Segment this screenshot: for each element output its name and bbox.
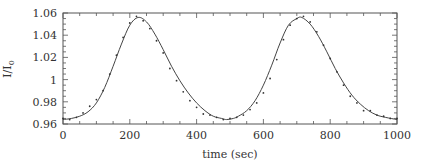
y-tick-label: 0.96 — [33, 118, 58, 131]
data-point — [69, 119, 71, 121]
data-point — [276, 59, 278, 61]
data-point — [389, 118, 391, 120]
x-tick-label: 1000 — [383, 129, 411, 142]
data-point — [149, 28, 151, 30]
data-point — [256, 102, 258, 104]
data-point — [363, 110, 365, 112]
data-point — [396, 118, 398, 120]
data-point — [82, 112, 84, 114]
data-point — [269, 78, 271, 80]
y-tick-labels: 0.960.9811.021.041.06 — [33, 7, 58, 131]
data-point — [336, 71, 338, 73]
data-point — [303, 15, 305, 17]
x-tick-label: 600 — [253, 129, 274, 142]
data-point — [356, 102, 358, 104]
data-point — [323, 44, 325, 46]
x-axis-title: time (sec) — [202, 148, 257, 161]
data-point — [242, 114, 244, 116]
data-point — [383, 115, 385, 117]
data-point — [62, 118, 64, 120]
plot-area — [63, 13, 397, 124]
data-point — [369, 110, 371, 112]
data-point — [169, 68, 171, 70]
data-point — [162, 52, 164, 54]
data-point — [289, 24, 291, 26]
y-axis-title: I/I0 — [1, 60, 16, 78]
data-point — [109, 73, 111, 75]
data-point — [96, 99, 98, 101]
y-tick-label: 1.02 — [33, 51, 58, 64]
data-point — [129, 22, 131, 24]
data-point — [176, 80, 178, 82]
data-point — [196, 106, 198, 108]
data-point — [102, 90, 104, 92]
data-point — [216, 116, 218, 118]
y-tick-label: 1.04 — [33, 29, 58, 42]
data-point — [89, 105, 91, 107]
data-point — [136, 15, 138, 17]
data-point — [156, 40, 158, 42]
data-point — [209, 114, 211, 116]
data-point — [116, 54, 118, 56]
x-tick-label: 400 — [186, 129, 207, 142]
data-point — [236, 116, 238, 118]
data-point — [309, 21, 311, 23]
data-point — [263, 92, 265, 94]
y-tick-label: 1 — [50, 74, 57, 87]
x-tick-label: 200 — [119, 129, 140, 142]
fit-curve — [63, 17, 397, 120]
data-point — [229, 118, 231, 120]
data-point — [189, 100, 191, 102]
data-point — [122, 37, 124, 39]
data-point — [296, 18, 298, 20]
x-tick-label: 800 — [320, 129, 341, 142]
axis-ticks — [63, 13, 397, 124]
y-tick-label: 1.06 — [33, 7, 58, 20]
data-point — [202, 113, 204, 115]
data-point — [329, 58, 331, 60]
x-tick-label: 0 — [60, 129, 67, 142]
data-point — [283, 39, 285, 41]
data-point — [376, 114, 378, 116]
data-point — [349, 95, 351, 97]
data-point — [75, 116, 77, 118]
chart: 0.960.9811.021.041.06 02004006008001000 … — [0, 0, 427, 163]
y-tick-label: 0.98 — [33, 96, 58, 109]
x-tick-labels: 02004006008001000 — [60, 129, 412, 142]
data-point — [249, 109, 251, 111]
data-point — [316, 31, 318, 33]
data-point — [182, 91, 184, 93]
plot-frame — [63, 13, 397, 124]
data-point — [222, 119, 224, 121]
data-point — [142, 20, 144, 22]
data-point — [343, 84, 345, 86]
